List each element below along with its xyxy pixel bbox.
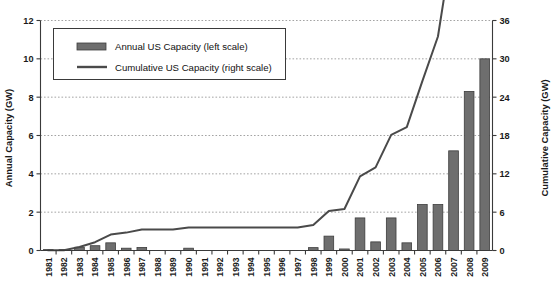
xtick-label-1996: 1996 bbox=[277, 257, 287, 276]
xtick-label-1997: 1997 bbox=[293, 257, 303, 276]
ytick-label-right: 6 bbox=[500, 208, 505, 218]
ytick-label-right: 30 bbox=[500, 54, 510, 64]
chart-legend: Annual US Capacity (left scale) Cumulati… bbox=[54, 29, 286, 80]
xtick-label-2006: 2006 bbox=[433, 257, 443, 276]
xtick-label-1982: 1982 bbox=[59, 257, 69, 276]
ytick-label-left: 10 bbox=[23, 54, 33, 64]
bar-2005 bbox=[418, 205, 428, 251]
xtick-label-2009: 2009 bbox=[480, 257, 490, 276]
bar-2001 bbox=[355, 218, 365, 251]
bar-2003 bbox=[386, 218, 396, 251]
y-axis-ticks-left: 024681012 bbox=[23, 16, 40, 256]
y-axis-ticks-right: 061218243036 bbox=[493, 16, 511, 256]
bar-2008 bbox=[464, 91, 474, 250]
dual-axis-chart: 024681012 061218243036 19811982198319841… bbox=[0, 0, 558, 293]
xtick-label-1987: 1987 bbox=[137, 257, 147, 276]
xtick-label-1989: 1989 bbox=[168, 257, 178, 276]
xtick-label-1995: 1995 bbox=[262, 257, 272, 276]
ytick-label-right: 36 bbox=[500, 16, 510, 26]
xtick-label-1999: 1999 bbox=[324, 257, 334, 276]
x-axis-ticks: 1981198219831984198519861987198819891990… bbox=[44, 251, 490, 277]
bar-2004 bbox=[402, 243, 412, 251]
xtick-label-2004: 2004 bbox=[402, 257, 412, 276]
xtick-label-1988: 1988 bbox=[153, 257, 163, 276]
legend-swatch-bar bbox=[77, 43, 106, 50]
ytick-label-left: 8 bbox=[28, 93, 33, 103]
bar-1985 bbox=[106, 243, 116, 251]
xtick-label-2001: 2001 bbox=[355, 257, 365, 276]
y-axis-label-right: Cumulative Capacity (GW) bbox=[539, 79, 550, 196]
ytick-label-left: 12 bbox=[23, 16, 33, 26]
xtick-label-2008: 2008 bbox=[465, 257, 475, 276]
xtick-label-1994: 1994 bbox=[246, 257, 256, 276]
xtick-label-1998: 1998 bbox=[309, 257, 319, 276]
ytick-label-right: 18 bbox=[500, 131, 510, 141]
ytick-label-right: 12 bbox=[500, 169, 510, 179]
bar-2002 bbox=[371, 242, 381, 251]
xtick-label-1992: 1992 bbox=[215, 257, 225, 276]
xtick-label-1991: 1991 bbox=[200, 257, 210, 276]
xtick-label-2005: 2005 bbox=[418, 257, 428, 276]
ytick-label-left: 0 bbox=[28, 246, 33, 256]
ytick-label-left: 2 bbox=[28, 208, 33, 218]
bar-2007 bbox=[449, 151, 459, 251]
ytick-label-left: 6 bbox=[28, 131, 33, 141]
bar-1999 bbox=[324, 236, 334, 250]
xtick-label-2003: 2003 bbox=[387, 257, 397, 276]
ytick-label-right: 24 bbox=[500, 93, 511, 103]
xtick-label-1990: 1990 bbox=[184, 257, 194, 276]
xtick-label-2000: 2000 bbox=[340, 257, 350, 276]
xtick-label-1985: 1985 bbox=[106, 257, 116, 276]
xtick-label-1993: 1993 bbox=[231, 257, 241, 276]
ytick-label-right: 0 bbox=[500, 246, 505, 256]
chart-container: 024681012 061218243036 19811982198319841… bbox=[0, 0, 558, 293]
legend-label-annual: Annual US Capacity (left scale) bbox=[115, 41, 248, 52]
bar-2006 bbox=[433, 205, 443, 251]
xtick-label-1984: 1984 bbox=[90, 257, 100, 276]
xtick-label-1981: 1981 bbox=[44, 257, 54, 276]
ytick-label-left: 4 bbox=[28, 169, 34, 179]
bar-2009 bbox=[480, 59, 490, 251]
bar-1984 bbox=[90, 246, 100, 251]
xtick-label-2007: 2007 bbox=[449, 257, 459, 276]
xtick-label-1986: 1986 bbox=[122, 257, 132, 276]
xtick-label-2002: 2002 bbox=[371, 257, 381, 276]
y-axis-label-left: Annual Capacity (GW) bbox=[3, 89, 14, 187]
bar-series bbox=[43, 59, 489, 251]
legend-label-cumulative: Cumulative US Capacity (right scale) bbox=[115, 62, 272, 73]
xtick-label-1983: 1983 bbox=[75, 257, 85, 276]
